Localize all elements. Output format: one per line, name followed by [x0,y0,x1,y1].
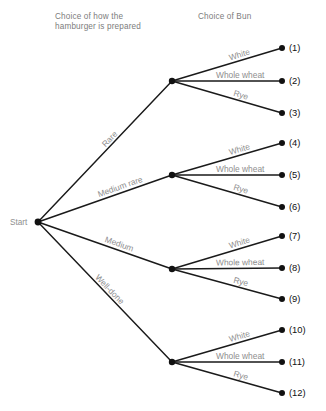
stage2-edges [172,48,282,393]
branch-label-medium-whole-wheat: Whole wheat [216,257,265,267]
outcome-label-9: (9) [289,293,300,304]
node-outcome-11 [279,359,285,365]
edge-start-to-medium-rare [38,175,172,222]
node-medium [169,266,175,272]
outcome-label-5: (5) [289,169,300,180]
node-well-done [169,359,175,365]
node-medium-rare [169,172,175,178]
node-outcome-2 [279,78,285,84]
start-node-label: Start [10,218,28,227]
node-outcome-1 [279,45,285,51]
branch-label-medium-rare: Medium rare [96,174,144,199]
node-outcome-4 [279,140,285,146]
edge-medium-whole-wheat [172,268,282,269]
node-start [35,219,42,226]
column-header-stage1-line2: hamburger is prepared [55,22,141,31]
outcome-label-8: (8) [289,262,300,273]
edge-medium-rare-rye [172,175,282,207]
tree-diagram: Choice of how the hamburger is prepared … [0,0,326,411]
edge-rare-rye [172,81,282,113]
node-outcome-3 [279,110,285,116]
outcome-label-7: (7) [289,230,300,241]
branch-label-well-done-whole-wheat: Whole wheat [216,351,265,361]
tree-diagram-canvas: Choice of how the hamburger is prepared … [0,0,326,411]
outcome-label-3: (3) [289,107,300,118]
outcome-label-4: (4) [289,137,300,148]
outcome-label-1: (1) [289,42,300,53]
stage1-edges [38,81,172,362]
edge-well-done-rye [172,362,282,393]
node-outcome-12 [279,390,285,396]
node-rare [169,78,175,84]
branch-label-medium-rare-whole-wheat: Whole wheat [216,164,265,174]
edge-medium-rye [172,269,282,299]
node-outcome-7 [279,233,285,239]
outcome-label-2: (2) [289,75,300,86]
node-outcome-10 [279,327,285,333]
branch-label-well-done: Well-done [93,272,126,306]
branch-label-medium-white: White [228,235,252,251]
outcome-label-11: (11) [289,356,305,367]
column-header-stage2: Choice of Bun [198,12,252,21]
outcome-labels: (1)(2)(3)(4)(5)(6)(7)(8)(9)(10)(11)(12) [289,42,306,398]
outcome-label-10: (10) [289,324,306,335]
column-header-stage1-line1: Choice of how the [55,12,123,21]
edge-start-to-medium [38,222,172,269]
branch-label-rare-white: White [228,47,252,63]
node-outcome-5 [279,172,285,178]
node-outcome-8 [279,265,285,271]
node-outcome-6 [279,204,285,210]
branch-label-well-done-white: White [228,328,252,344]
node-outcome-9 [279,296,285,302]
branch-label-medium-rare-white: White [228,141,252,157]
outcome-label-12: (12) [289,387,306,398]
stage2-branch-labels: WhiteWhole wheatRyeWhiteWhole wheatRyeWh… [216,47,265,383]
edge-start-to-rare [38,81,172,222]
outcome-label-6: (6) [289,201,300,212]
branch-label-rare-whole-wheat: Whole wheat [216,70,265,80]
